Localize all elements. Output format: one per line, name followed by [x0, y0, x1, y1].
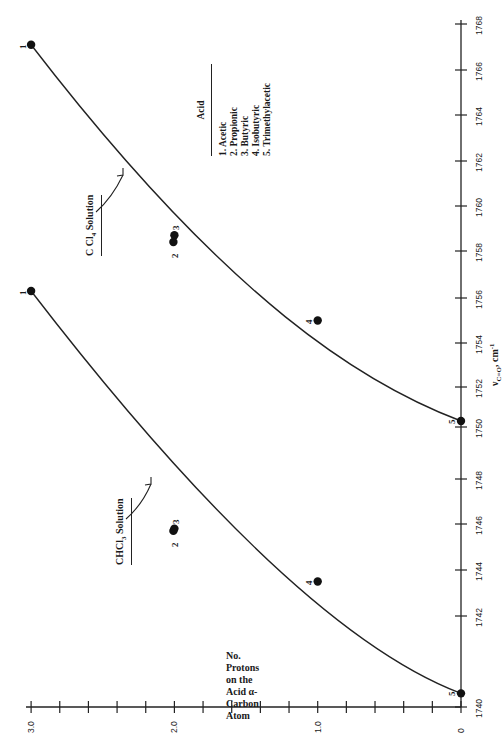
data-point [27, 287, 35, 295]
point-label: 1 [18, 44, 28, 49]
annotation-arrows [96, 168, 151, 519]
point-label: 3 [171, 519, 181, 524]
y-axis-label-line: Protons [226, 662, 259, 674]
x-tick-label: 1766 [474, 62, 484, 81]
legend-entry: 5. Trimethylacetic [262, 64, 273, 156]
y-axis-label-line: Carbon [226, 698, 259, 710]
legend-entries: 1. Acetic2. Propionic3. Butyric4. Isobut… [218, 64, 273, 156]
legend-title: Acid [196, 64, 212, 156]
fitted-curve-chcl3 [31, 291, 461, 693]
x-tick-label: 1744 [474, 562, 484, 581]
y-axis-label-line: Atom [226, 710, 259, 722]
chcl3-arrowhead-icon [145, 477, 151, 485]
x-tick-label: 1746 [474, 516, 484, 535]
y-axis-label-line: on the [226, 674, 259, 686]
x-tick-label: 1754 [474, 335, 484, 354]
data-point [170, 524, 178, 532]
point-label: 4 [304, 580, 314, 585]
y-axis-label: No.Protonson theAcid α-CarbonAtom [226, 650, 259, 722]
y-tick-label: 2.0 [169, 721, 179, 733]
y-tick-label: 0 [456, 728, 466, 733]
chcl3-solution-label: CHCl3 Solution [114, 498, 132, 565]
point-label: 1 [18, 290, 28, 295]
x-tick-label: 1742 [474, 608, 484, 627]
data-point [314, 316, 322, 324]
data-point [170, 231, 178, 239]
data-point [314, 577, 322, 585]
ccl4-arrowhead-icon [117, 168, 123, 176]
x-tick-label: 1750 [474, 419, 484, 438]
y-axis-label-line: No. [226, 650, 259, 662]
point-label: 5 [447, 692, 457, 697]
x-tick-label: 1748 [474, 471, 484, 490]
point-label: 2 [170, 254, 180, 259]
point-label: 3 [171, 226, 181, 231]
x-tick-label: 1740 [474, 699, 484, 718]
y-tick-label: 3.0 [26, 721, 36, 733]
legend-entry: 3. Butyric [240, 64, 251, 156]
point-label: 4 [304, 319, 314, 324]
x-tick-label: 1760 [474, 198, 484, 217]
data-point [27, 41, 35, 49]
ccl4-solution-label: C Cl4 Solution [84, 195, 102, 256]
legend-entry: 1. Acetic [218, 64, 229, 156]
point-label: 5 [447, 420, 457, 425]
x-tick-label: 1758 [474, 243, 484, 262]
data-point [457, 689, 465, 697]
x-tick-label: 1752 [474, 379, 484, 398]
x-tick-label: 1768 [474, 16, 484, 35]
x-tick-label: 1762 [474, 153, 484, 172]
legend-entry: 4. Isobutyric [251, 64, 262, 156]
x-tick-label: 1764 [474, 107, 484, 126]
data-point [457, 417, 465, 425]
legend: Acid 1. Acetic2. Propionic3. Butyric4. I… [196, 64, 273, 156]
point-label: 2 [170, 542, 180, 547]
legend-entry: 2. Propionic [229, 64, 240, 156]
x-tick-label: 1756 [474, 290, 484, 309]
y-tick-label: 1.0 [313, 721, 323, 733]
x-axis-label: νC=O, cm-1 [488, 343, 502, 386]
y-axis-label-line: Acid α- [226, 686, 259, 698]
